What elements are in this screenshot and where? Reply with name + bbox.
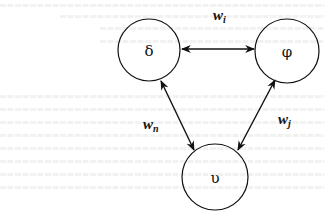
node-delta: δ	[118, 19, 180, 81]
node-label-delta: δ	[144, 42, 153, 60]
node-upsilon: υ	[182, 144, 248, 210]
node-label-upsilon: υ	[210, 169, 219, 187]
edge-label-wi: wi	[213, 7, 226, 25]
edge-label-wj: wj	[278, 111, 291, 129]
edge-arrow-delta-upsilon	[161, 81, 194, 150]
edge-label-wn: wn	[143, 116, 159, 134]
node-label-phi: φ	[282, 43, 293, 61]
edge-arrow-phi-upsilon	[238, 80, 275, 150]
weighted-graph-diagram: δ φ υ wi wn wj	[0, 0, 324, 212]
node-phi: φ	[255, 19, 319, 83]
